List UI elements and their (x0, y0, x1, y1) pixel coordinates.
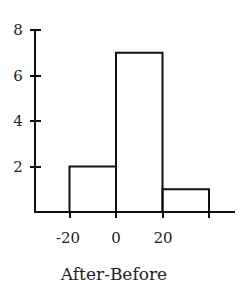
bars (70, 53, 210, 212)
histogram-bar (116, 53, 163, 212)
x-axis-label: After-Before (60, 264, 167, 284)
y-tick-label-8: 8 (13, 21, 23, 39)
y-tick-label-6: 6 (13, 67, 23, 85)
histogram-bar (163, 189, 210, 212)
x-tick-label-minus20: -20 (56, 229, 80, 247)
y-tick-label-4: 4 (13, 112, 23, 130)
x-tick-label-0: 0 (111, 229, 121, 247)
y-tick-label-2: 2 (13, 158, 23, 176)
x-tick-label-20: 20 (153, 229, 172, 247)
histogram-chart: 8 6 4 2 -20 0 20 After-Before (0, 0, 251, 305)
histogram-bar (70, 167, 117, 213)
